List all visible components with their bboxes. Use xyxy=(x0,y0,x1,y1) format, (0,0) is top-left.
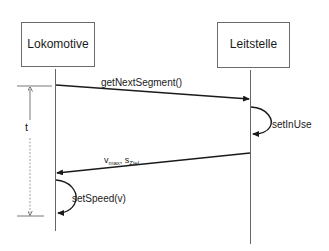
self-message-arrow-setinuse xyxy=(251,107,271,134)
message-arrow-return-vmax-sziel xyxy=(57,153,250,173)
message-label-setinuse: setInUse xyxy=(272,119,311,131)
participant-label-lokomotive: Lokomotive xyxy=(21,37,95,51)
time-bracket-label: t xyxy=(25,121,28,133)
return-value-v-subscript: max xyxy=(109,160,120,166)
participant-label-leitstelle: Leitstelle xyxy=(217,37,290,51)
message-label-return-vmax-sziel: vmax, sZiel xyxy=(104,154,139,169)
message-label-setspeed: setSpeed(v) xyxy=(72,193,126,205)
return-value-s-subscript: Ziel xyxy=(129,160,139,166)
message-label-getnextsegment: getNextSegment() xyxy=(101,77,182,89)
